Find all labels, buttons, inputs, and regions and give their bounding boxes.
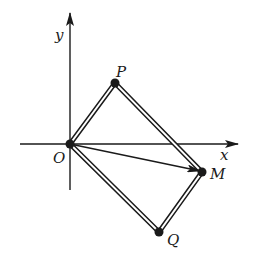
origin-label: O bbox=[53, 149, 65, 167]
point-p-label: P bbox=[115, 63, 127, 81]
point-m bbox=[198, 168, 207, 177]
y-axis-label: y bbox=[54, 26, 64, 44]
diagram-canvas: y P O x M Q bbox=[0, 0, 255, 266]
point-o bbox=[66, 140, 75, 149]
point-q bbox=[155, 228, 164, 237]
point-m-label: M bbox=[209, 165, 226, 183]
point-q-label: Q bbox=[167, 231, 179, 249]
x-axis-label: x bbox=[220, 146, 229, 164]
